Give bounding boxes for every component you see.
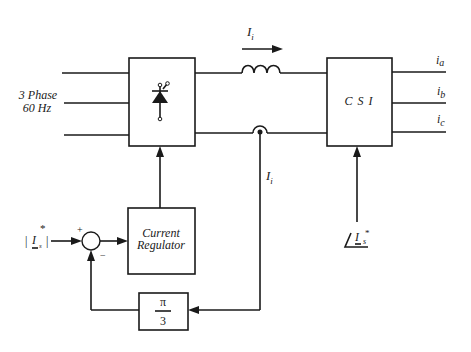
magnitude-reference-label: | I s | * [25, 222, 48, 250]
arrowhead-icon [71, 237, 82, 245]
svg-text:|: | [46, 234, 48, 248]
csi-label: C S I [345, 94, 374, 108]
svg-text:s: s [39, 242, 42, 250]
arrowhead-icon [156, 146, 164, 157]
svg-text:|: | [25, 234, 27, 248]
minus-sign: − [100, 250, 106, 261]
dc-current-label: Ii [246, 24, 254, 42]
source-label-line1: 3 Phase [18, 88, 58, 102]
arrowhead-icon [117, 237, 128, 245]
source-label-line2: 60 Hz [23, 101, 52, 115]
arrowhead-icon [87, 250, 95, 261]
svg-text:*: * [40, 222, 46, 234]
inductor-icon [242, 66, 280, 74]
svg-text:I: I [31, 233, 37, 247]
svg-text:*: * [365, 228, 370, 238]
summing-junction [82, 232, 100, 250]
arrowhead-icon [353, 146, 361, 157]
gain-numerator: π [160, 295, 166, 309]
feedback-current-label: Ii [265, 168, 273, 186]
arrowhead-icon [272, 45, 283, 53]
plus-sign: + [77, 224, 83, 235]
regulator-label-line2: Regulator [136, 238, 185, 252]
block-diagram: 3 Phase 60 Hz Ii C S I ia ib ic I s * [0, 0, 471, 352]
output-label-c: ic [437, 112, 445, 128]
arrowhead-icon [188, 306, 199, 314]
output-label-b: ib [437, 84, 445, 100]
angle-reference-label: I s * [345, 228, 370, 247]
svg-text:s: s [363, 237, 366, 246]
svg-text:I: I [354, 230, 360, 244]
gain-denominator: 3 [160, 314, 166, 328]
output-label-a: ia [436, 53, 444, 68]
